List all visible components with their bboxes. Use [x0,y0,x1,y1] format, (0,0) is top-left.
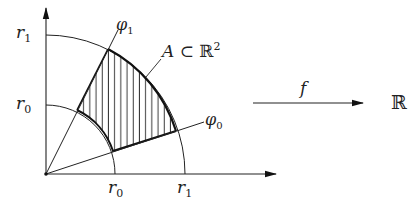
origin-point [44,172,48,176]
polar-region-diagram: r1 r0 r0 r1 φ1 φ0 A ⊂ ℝ2 f ℝ [0,0,412,201]
label-r1-y: r1 [16,22,31,45]
label-phi1: φ1 [116,15,134,36]
label-r0-y: r0 [16,93,31,116]
label-r1-x: r1 [177,177,192,200]
region-label-leader [146,59,161,77]
label-map-f: f [298,78,309,98]
label-r0-x: r0 [108,177,123,200]
label-phi0: φ0 [205,110,223,131]
label-region-a: A ⊂ ℝ2 [160,40,220,61]
label-codomain: ℝ [391,91,407,113]
